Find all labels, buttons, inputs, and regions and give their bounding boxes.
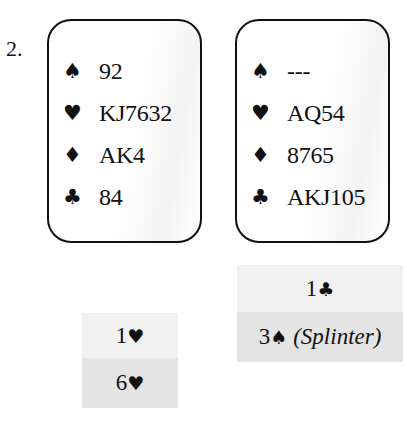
bid-level: 6 [116, 370, 128, 396]
suit-line-clubs: ♣ AKJ105 [251, 177, 365, 217]
suit-line-hearts: ♥ AQ54 [251, 93, 344, 133]
suit-line-spades: ♠ --- [251, 51, 310, 91]
diamond-cards: AK4 [99, 142, 145, 169]
club-icon: ♣ [63, 185, 99, 209]
problem-number: 2. [6, 36, 23, 62]
suit-line-spades: ♠ 92 [63, 51, 122, 91]
club-icon: ♣ [251, 185, 287, 209]
club-icon: ♣ [317, 278, 334, 300]
auction-bid-right-2: 3♠(Splinter) [237, 312, 403, 362]
heart-icon: ♥ [127, 325, 144, 347]
auction-bid-right-1: 1♣ [237, 265, 403, 312]
spade-cards: --- [287, 58, 310, 85]
hand-left: ♠ 92 ♥ KJ7632 ♦ AK4 ♣ 84 [47, 19, 202, 243]
spade-cards: 92 [99, 58, 122, 85]
spade-icon: ♠ [270, 326, 287, 348]
bid-annotation: (Splinter) [293, 324, 381, 350]
spade-icon: ♠ [251, 59, 287, 83]
heart-cards: AQ54 [287, 100, 344, 127]
auction-bid-left-1: 1♥ [82, 313, 178, 358]
heart-icon: ♥ [63, 101, 99, 125]
bid-level: 1 [306, 276, 318, 302]
diamond-icon: ♦ [63, 143, 99, 167]
bid-level: 3 [259, 324, 271, 350]
suit-line-diamonds: ♦ 8765 [251, 135, 334, 175]
diamond-cards: 8765 [287, 142, 334, 169]
bid-level: 1 [116, 323, 128, 349]
suit-line-clubs: ♣ 84 [63, 177, 122, 217]
spade-icon: ♠ [63, 59, 99, 83]
club-cards: 84 [99, 184, 122, 211]
auction-bid-left-2: 6♥ [82, 358, 178, 408]
suit-line-diamonds: ♦ AK4 [63, 135, 145, 175]
hand-right: ♠ --- ♥ AQ54 ♦ 8765 ♣ AKJ105 [235, 19, 390, 243]
heart-cards: KJ7632 [99, 100, 172, 127]
club-cards: AKJ105 [287, 184, 365, 211]
suit-line-hearts: ♥ KJ7632 [63, 93, 172, 133]
heart-icon: ♥ [127, 372, 144, 394]
diamond-icon: ♦ [251, 143, 287, 167]
heart-icon: ♥ [251, 101, 287, 125]
